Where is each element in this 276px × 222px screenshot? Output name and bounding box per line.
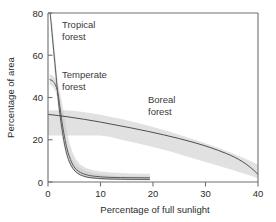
x-tick-label-20: 20	[148, 188, 159, 199]
y-tick-label-0: 0	[38, 177, 43, 188]
x-axis-title: Percentage of full sunlight	[100, 204, 210, 215]
forest-light-response-chart: 80 60 40 20 0 0 10 20 30 40 Percentage o…	[0, 0, 276, 222]
boreal-forest-label-line2: forest	[148, 106, 172, 117]
temperate-forest-label-line2: forest	[62, 81, 86, 92]
y-tick-label-40: 40	[32, 92, 43, 103]
tropical-forest-label-line2: forest	[62, 31, 86, 42]
y-tick-label-20: 20	[32, 134, 43, 145]
x-tick-label-40: 40	[253, 188, 264, 199]
y-axis-title: Percentage of area	[5, 56, 16, 138]
boreal-forest-label-line1: Boreal	[148, 94, 175, 105]
x-tick-label-10: 10	[95, 188, 106, 199]
x-axis-tick-labels: 0 10 20 30 40	[45, 188, 263, 199]
x-tick-label-0: 0	[45, 188, 50, 199]
y-tick-label-80: 80	[32, 8, 43, 19]
y-axis-tick-labels: 80 60 40 20 0	[32, 8, 43, 188]
temperate-forest-label-line1: Temperate	[62, 69, 107, 80]
y-tick-label-60: 60	[32, 50, 43, 61]
x-axis-ticks	[48, 182, 258, 187]
curve-annotations: Tropical forest Temperate forest Boreal …	[62, 19, 175, 117]
chart-figure: 80 60 40 20 0 0 10 20 30 40 Percentage o…	[0, 0, 276, 222]
tropical-forest-label-line1: Tropical	[62, 19, 95, 30]
x-tick-label-30: 30	[200, 188, 211, 199]
